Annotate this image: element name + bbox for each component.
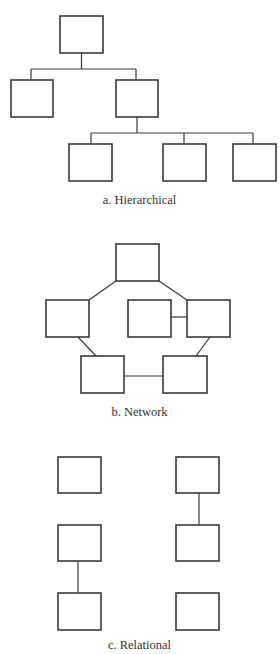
- network-node-middle: [128, 300, 171, 337]
- network-edge-left-bottomleft: [78, 337, 96, 356]
- hierarchy-connector-child: [91, 117, 253, 144]
- hierarchy-root-node: [60, 16, 103, 53]
- hierarchy-level2-left-node: [11, 80, 53, 117]
- hierarchical-caption: a. Hierarchical: [0, 193, 279, 207]
- relational-table-2: [176, 457, 219, 493]
- network-edge-right-bottomright: [196, 337, 210, 356]
- hierarchy-connector-root: [31, 53, 136, 80]
- network-caption: b. Network: [0, 405, 279, 419]
- hierarchy-level3-node-1: [69, 144, 112, 181]
- network-diagram: [46, 244, 230, 393]
- hierarchy-level3-node-3: [233, 144, 276, 181]
- hierarchy-level3-node-2: [163, 144, 206, 181]
- hierarchy-level2-right-node: [116, 80, 158, 117]
- relational-table-1: [58, 457, 101, 493]
- relational-table-5: [58, 593, 101, 630]
- network-node-left: [46, 300, 89, 337]
- network-edge-top-right: [159, 281, 187, 300]
- network-edge-top-left: [89, 281, 116, 300]
- relational-diagram: [58, 457, 219, 630]
- network-node-bottom-left: [81, 356, 124, 393]
- hierarchical-diagram: [11, 16, 276, 181]
- network-node-bottom-right: [163, 356, 207, 393]
- relational-table-4: [176, 525, 219, 561]
- relational-table-6: [176, 593, 219, 630]
- network-node-top: [116, 244, 159, 281]
- relational-table-3: [58, 525, 101, 561]
- network-node-right: [187, 300, 230, 337]
- relational-caption: c. Relational: [0, 638, 279, 652]
- data-models-diagram: [0, 0, 279, 654]
